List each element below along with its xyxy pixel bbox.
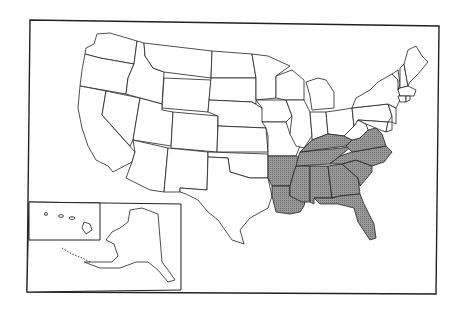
state-florida[interactable] [314, 194, 376, 240]
state-wisconsin[interactable] [276, 70, 304, 100]
state-rhode-island[interactable] [406, 96, 410, 102]
state-massachusetts[interactable] [398, 86, 416, 96]
state-wyoming[interactable] [162, 78, 211, 112]
state-kansas[interactable] [217, 126, 268, 152]
state-new-york[interactable] [352, 74, 400, 108]
state-michigan[interactable] [306, 78, 334, 110]
state-maine[interactable] [404, 46, 428, 86]
us-map: United States [0, 0, 462, 314]
state-arizona[interactable] [126, 140, 168, 192]
hawaii-inset-frame [29, 202, 100, 240]
state-north-dakota[interactable] [211, 51, 256, 78]
state-new-mexico[interactable] [164, 148, 208, 192]
state-colorado[interactable] [171, 112, 218, 152]
